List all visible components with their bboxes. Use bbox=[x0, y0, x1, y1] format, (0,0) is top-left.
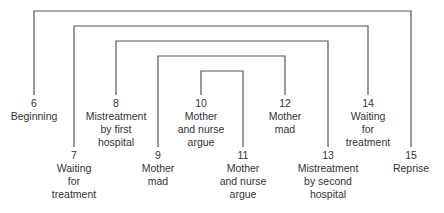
node-label-line: Mistreatment bbox=[283, 162, 373, 175]
node-number: 6 bbox=[0, 97, 79, 110]
node-label-line: argue bbox=[156, 136, 246, 149]
node-label-line: hospital bbox=[283, 188, 373, 201]
node-label-line: for bbox=[323, 123, 413, 136]
node-label-line: Waiting bbox=[29, 162, 119, 175]
node-number: 9 bbox=[113, 149, 203, 162]
node-15: 15Reprise bbox=[366, 149, 444, 175]
node-label-line: Mother bbox=[156, 110, 246, 123]
node-label-line: for bbox=[29, 175, 119, 188]
node-label-line: Mother bbox=[240, 110, 330, 123]
node-label-line: by second bbox=[283, 175, 373, 188]
node-12: 12Mothermad bbox=[240, 97, 330, 136]
node-number: 15 bbox=[366, 149, 444, 162]
node-number: 13 bbox=[283, 149, 373, 162]
node-number: 14 bbox=[323, 97, 413, 110]
node-label-line: mad bbox=[113, 175, 203, 188]
node-label-line: Mistreatment bbox=[71, 110, 161, 123]
node-label-line: Beginning bbox=[0, 110, 79, 123]
node-label-line: Reprise bbox=[366, 162, 444, 175]
node-number: 10 bbox=[156, 97, 246, 110]
node-8: 8Mistreatmentby firsthospital bbox=[71, 97, 161, 149]
node-label-line: and nurse bbox=[156, 123, 246, 136]
node-label-line: by first bbox=[71, 123, 161, 136]
node-label-line: argue bbox=[198, 188, 288, 201]
node-number: 12 bbox=[240, 97, 330, 110]
node-label-line: mad bbox=[240, 123, 330, 136]
node-label-line: and nurse bbox=[198, 175, 288, 188]
node-13: 13Mistreatmentby secondhospital bbox=[283, 149, 373, 201]
node-number: 8 bbox=[71, 97, 161, 110]
node-number: 11 bbox=[198, 149, 288, 162]
node-label-line: treatment bbox=[29, 188, 119, 201]
node-label-line: hospital bbox=[71, 136, 161, 149]
node-label-line: Mother bbox=[113, 162, 203, 175]
node-7: 7Waitingfortreatment bbox=[29, 149, 119, 201]
node-label-line: treatment bbox=[323, 136, 413, 149]
node-14: 14Waitingfortreatment bbox=[323, 97, 413, 149]
node-10: 10Motherand nurseargue bbox=[156, 97, 246, 149]
node-number: 7 bbox=[29, 149, 119, 162]
node-11: 11Motherand nurseargue bbox=[198, 149, 288, 201]
node-label-line: Waiting bbox=[323, 110, 413, 123]
node-6: 6Beginning bbox=[0, 97, 79, 123]
node-label-line: Mother bbox=[198, 162, 288, 175]
node-9: 9Mothermad bbox=[113, 149, 203, 188]
